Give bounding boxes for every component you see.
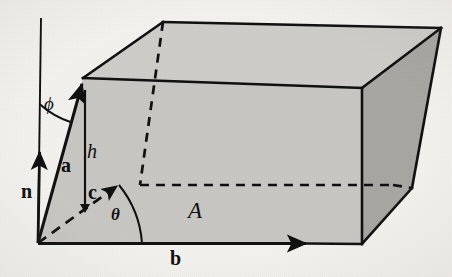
edge-bottom-front [306, 244, 362, 245]
vector-n-arrow [38, 152, 40, 243]
label-phi: ϕ [44, 94, 54, 113]
figure-container: ϕ h a n c θ A b [0, 0, 452, 277]
label-c: c [88, 182, 97, 202]
solid-faces [38, 22, 441, 244]
label-theta: θ [111, 206, 120, 223]
label-b: b [170, 248, 181, 268]
parallelepiped-diagram [0, 0, 452, 277]
label-A: A [188, 199, 202, 222]
label-n: n [21, 181, 32, 201]
label-h: h [87, 141, 97, 161]
label-a: a [61, 155, 71, 175]
